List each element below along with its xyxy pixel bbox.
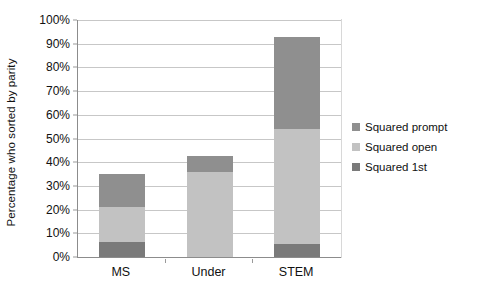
legend-label: Squared open <box>365 141 437 153</box>
y-tick-label: 70% <box>46 84 70 98</box>
x-tick-label-ms: MS <box>111 265 130 279</box>
bar-group-ms[interactable] <box>99 20 145 257</box>
bar-segment[interactable] <box>187 156 233 171</box>
y-tick-label: 20% <box>46 203 70 217</box>
y-tick-label: 10% <box>46 226 70 240</box>
bar-segment[interactable] <box>274 129 320 244</box>
legend-swatch-icon <box>352 123 360 131</box>
y-axis-title: Percentage who sorted by parity <box>0 0 22 285</box>
x-tick-mark <box>165 259 166 263</box>
bar-group-stem[interactable] <box>274 20 320 257</box>
chart-legend: Squared promptSquared openSquared 1st <box>352 118 476 178</box>
y-tick-label: 40% <box>46 155 70 169</box>
bar-segment[interactable] <box>187 172 233 257</box>
legend-label: Squared 1st <box>365 161 427 173</box>
y-tick-label: 80% <box>46 60 70 74</box>
y-tick-label: 50% <box>46 132 70 146</box>
x-axis-tick-labels: MSUnderSTEM <box>77 259 341 285</box>
y-axis-tick-labels: 0%10%20%30%40%50%60%70%80%90%100% <box>22 20 74 257</box>
bar-segment[interactable] <box>274 37 320 129</box>
plot-right-edge <box>341 19 342 258</box>
plot-area <box>77 20 341 258</box>
y-tick-label: 0% <box>53 250 70 264</box>
x-tick-label-stem: STEM <box>279 265 314 279</box>
legend-item[interactable]: Squared prompt <box>352 118 476 136</box>
bar-segment[interactable] <box>99 174 145 207</box>
bar-segment[interactable] <box>99 242 145 257</box>
bar-group-under[interactable] <box>187 20 233 257</box>
y-tick-label: 100% <box>39 13 70 27</box>
y-tick-label: 60% <box>46 108 70 122</box>
chart-container: Percentage who sorted by parity 0%10%20%… <box>0 0 478 285</box>
x-tick-label-under: Under <box>191 265 225 279</box>
y-tick-label: 30% <box>46 179 70 193</box>
y-tick-label: 90% <box>46 37 70 51</box>
legend-swatch-icon <box>352 143 360 151</box>
bar-segment[interactable] <box>274 244 320 257</box>
legend-item[interactable]: Squared open <box>352 138 476 156</box>
legend-item[interactable]: Squared 1st <box>352 158 476 176</box>
legend-label: Squared prompt <box>365 121 447 133</box>
legend-swatch-icon <box>352 163 360 171</box>
x-tick-mark <box>252 259 253 263</box>
bar-segment[interactable] <box>99 207 145 241</box>
